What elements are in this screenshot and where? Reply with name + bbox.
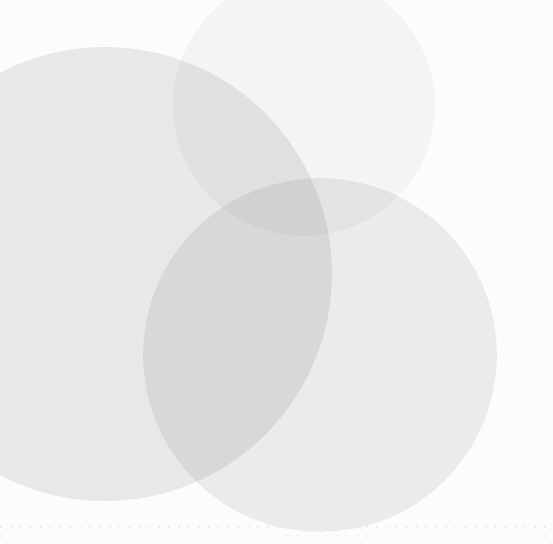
large-left-circle [0, 47, 332, 501]
decorative-canvas: Abstract decorative background of overla… [0, 0, 553, 544]
lower-dot-row [0, 535, 553, 539]
upper-dot-row [0, 526, 553, 530]
faint-top-circle [173, 0, 435, 236]
medium-right-circle [143, 178, 497, 532]
